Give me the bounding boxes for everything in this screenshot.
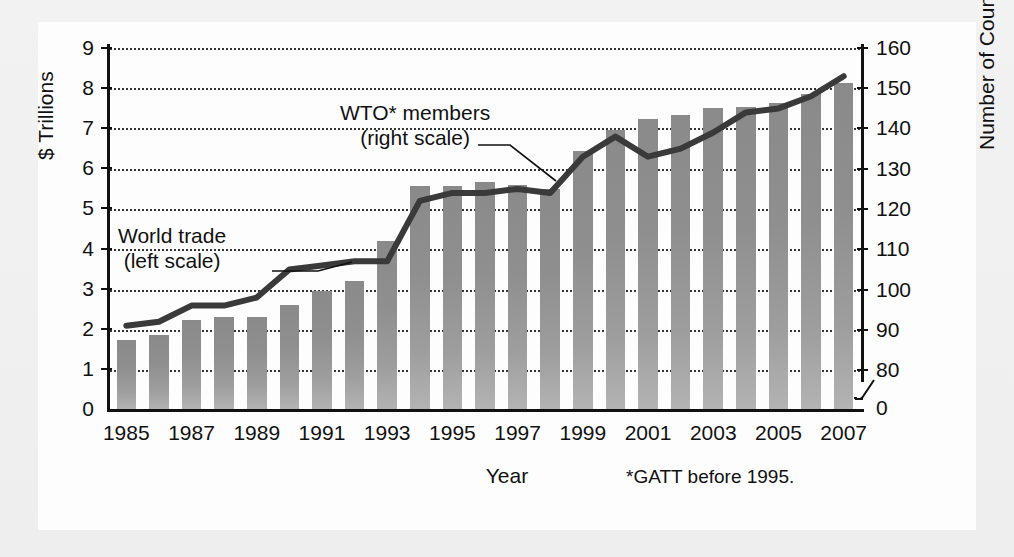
left-tick-label-8: 8 xyxy=(58,77,94,98)
bar-2001 xyxy=(638,119,658,409)
left-tick-4 xyxy=(101,248,112,250)
bar-1995 xyxy=(443,186,463,409)
bar-1993 xyxy=(377,241,397,409)
right-tick-160 xyxy=(857,47,868,49)
bar-2003 xyxy=(703,108,723,409)
x-tick-label-1985: 1985 xyxy=(91,421,161,445)
right-tick-90 xyxy=(857,329,868,331)
bar-1985 xyxy=(117,340,137,409)
right-tick-label-100: 100 xyxy=(876,279,922,300)
left-tick-8 xyxy=(101,87,112,89)
right-tick-label-0: 0 xyxy=(876,397,922,418)
gridline-8 xyxy=(110,88,860,90)
right-tick-label-120: 120 xyxy=(876,198,922,219)
left-tick-1 xyxy=(101,368,112,370)
right-tick-120 xyxy=(857,208,868,210)
right-tick-label-130: 130 xyxy=(876,158,922,179)
bar-2000 xyxy=(606,130,626,409)
left-axis-line xyxy=(107,44,110,412)
x-tick-label-1995: 1995 xyxy=(417,421,487,445)
x-tick-label-1997: 1997 xyxy=(483,421,553,445)
chart-figure: 0123456789 16015014013012011010090800 19… xyxy=(0,0,1014,557)
bar-1988 xyxy=(214,317,234,409)
bar-1992 xyxy=(345,281,365,409)
bar-1994 xyxy=(410,186,430,409)
bar-2006 xyxy=(801,94,821,409)
x-tick-label-1999: 1999 xyxy=(548,421,618,445)
right-tick-label-80: 80 xyxy=(876,359,922,380)
left-tick-6 xyxy=(101,167,112,169)
bar-1997 xyxy=(508,185,528,409)
bar-1999 xyxy=(573,151,593,409)
left-tick-label-6: 6 xyxy=(58,157,94,178)
annotation-wto-line1: WTO* members xyxy=(340,101,490,126)
bar-1991 xyxy=(312,291,332,409)
left-tick-label-9: 9 xyxy=(58,37,94,58)
bar-1987 xyxy=(182,320,202,409)
left-axis-title: $ Trillions xyxy=(34,71,58,160)
x-axis-line xyxy=(107,409,864,412)
annotation-world-trade: World trade (left scale) xyxy=(118,224,226,274)
bar-1989 xyxy=(247,317,267,409)
x-axis-title: Year xyxy=(0,464,1014,488)
bar-1990 xyxy=(280,305,300,409)
left-tick-3 xyxy=(101,288,112,290)
annotation-wto-line2: (right scale) xyxy=(340,126,490,151)
bar-1998 xyxy=(540,189,560,409)
bar-2004 xyxy=(736,107,756,409)
left-tick-label-5: 5 xyxy=(58,197,94,218)
x-tick-label-1987: 1987 xyxy=(157,421,227,445)
x-tick-label-1989: 1989 xyxy=(222,421,292,445)
left-tick-label-1: 1 xyxy=(58,358,94,379)
left-tick-label-3: 3 xyxy=(58,278,94,299)
chart-footnote: *GATT before 1995. xyxy=(626,466,794,488)
right-tick-150 xyxy=(857,87,868,89)
right-tick-110 xyxy=(857,248,868,250)
x-tick-label-2005: 2005 xyxy=(743,421,813,445)
gridline-9 xyxy=(110,48,860,50)
right-tick-label-110: 110 xyxy=(876,238,922,259)
annotation-trade-line2: (left scale) xyxy=(118,249,226,274)
right-tick-label-150: 150 xyxy=(876,77,922,98)
x-tick-label-2007: 2007 xyxy=(809,421,879,445)
bar-1996 xyxy=(475,182,495,409)
right-tick-100 xyxy=(857,289,868,291)
left-tick-label-7: 7 xyxy=(58,117,94,138)
left-tick-9 xyxy=(101,47,112,49)
bar-1986 xyxy=(149,335,169,409)
right-tick-140 xyxy=(857,127,868,129)
bar-2005 xyxy=(769,103,789,409)
left-tick-label-4: 4 xyxy=(58,238,94,259)
left-tick-label-2: 2 xyxy=(58,318,94,339)
x-tick-label-1991: 1991 xyxy=(287,421,357,445)
left-tick-7 xyxy=(101,127,112,129)
x-tick-label-2001: 2001 xyxy=(613,421,683,445)
right-tick-label-140: 140 xyxy=(876,117,922,138)
right-tick-label-90: 90 xyxy=(876,319,922,340)
annotation-trade-line1: World trade xyxy=(118,224,226,249)
right-tick-130 xyxy=(857,168,868,170)
bar-2002 xyxy=(671,115,691,409)
left-tick-2 xyxy=(101,328,112,330)
x-tick-label-2003: 2003 xyxy=(678,421,748,445)
left-tick-label-0: 0 xyxy=(58,398,94,419)
right-axis-line xyxy=(861,44,864,382)
bar-2007 xyxy=(834,83,854,409)
x-tick-label-1993: 1993 xyxy=(352,421,422,445)
axis-break-icon xyxy=(853,378,875,400)
right-axis-title: Number of Countries xyxy=(975,0,999,150)
annotation-wto-members: WTO* members (right scale) xyxy=(340,101,490,151)
left-tick-5 xyxy=(101,207,112,209)
right-tick-label-160: 160 xyxy=(876,37,922,58)
right-tick-80 xyxy=(857,369,868,371)
